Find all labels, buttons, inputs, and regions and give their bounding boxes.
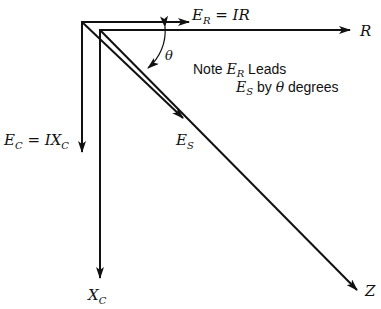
es-vector (82, 22, 183, 118)
xc-label: XC (87, 286, 107, 306)
note-line-2: ES by θ degrees (235, 79, 339, 97)
note-line-1: Note ER Leads (193, 61, 286, 79)
phasor-diagram: ER = IR R θ Note ER Leads ES by θ degree… (0, 0, 381, 309)
theta-label: θ (165, 48, 173, 63)
ec-label: EC = IXC (3, 131, 69, 151)
r-label: R (359, 22, 371, 40)
er-label: ER = IR (191, 6, 250, 26)
es-label: ES (175, 131, 194, 151)
z-label: Z (364, 282, 376, 300)
theta-arc (148, 27, 165, 68)
